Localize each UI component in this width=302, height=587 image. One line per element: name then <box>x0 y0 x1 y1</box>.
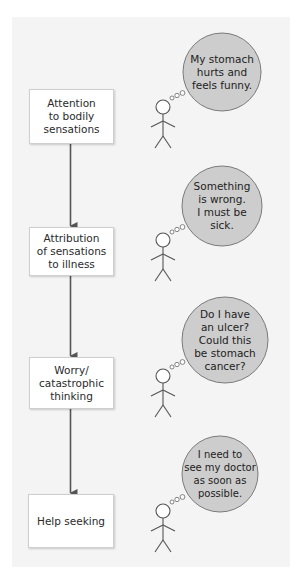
step-label: Attention to bodily sensations <box>43 97 99 136</box>
step-label: Worry/ catastrophic thinking <box>39 364 104 403</box>
stick-figure-icon <box>151 369 175 417</box>
stick-figure-icon <box>151 504 175 552</box>
stick-figure-icon <box>151 233 175 281</box>
step-box-worry: Worry/ catastrophic thinking <box>29 357 114 409</box>
step-label: Attribution of sensations to illness <box>37 232 107 271</box>
step-box-help-seeking: Help seeking <box>28 494 114 548</box>
stick-figure-icon <box>151 100 175 148</box>
thought-text: I need to see my doctor as soon as possi… <box>182 436 258 512</box>
step-label: Help seeking <box>37 515 105 528</box>
thought-text: Something is wrong. I must be sick. <box>182 166 262 246</box>
step-box-attribution: Attribution of sensations to illness <box>29 227 114 276</box>
thought-text: My stomach hurts and feels funny. <box>183 33 261 111</box>
thought-text: Do I have an ulcer? Could this be stomac… <box>182 297 268 383</box>
step-box-attention: Attention to bodily sensations <box>29 89 114 144</box>
